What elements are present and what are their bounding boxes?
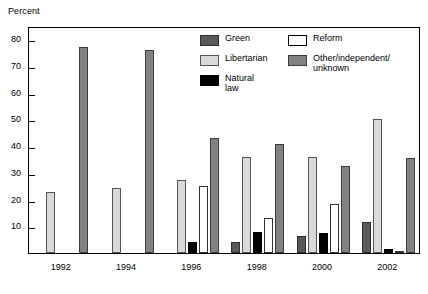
legend-entry-label: Green [225, 33, 250, 43]
bar [275, 144, 284, 253]
y-axis-tick-label: 30 [11, 168, 21, 178]
bar [373, 119, 382, 253]
percent-bar-chart: Percent 1020304050607080 199219941996199… [0, 0, 428, 294]
y-axis-tick-label: 10 [11, 221, 21, 231]
bar [231, 242, 240, 253]
y-axis-tick-label: 80 [11, 34, 21, 44]
bar [210, 138, 219, 253]
y-axis-tick-label: 60 [11, 88, 21, 98]
legend-swatch-icon [288, 35, 307, 46]
y-axis-tick-mark [29, 202, 35, 203]
y-axis-tick-label: 50 [11, 114, 21, 124]
bar [242, 157, 251, 253]
bar [330, 204, 339, 253]
bar [319, 233, 328, 253]
bar [46, 192, 55, 253]
y-axis-tick-mark [29, 95, 35, 96]
y-axis-tick-mark [29, 228, 35, 229]
bar [177, 180, 186, 253]
legend-swatch-icon [288, 55, 307, 66]
bar [406, 158, 415, 253]
y-axis-tick-mark [29, 175, 35, 176]
legend-swatch-icon [200, 35, 219, 46]
bar [79, 47, 88, 253]
bar [341, 166, 350, 253]
bar [253, 232, 262, 253]
legend-entry-label: Other/independent/ unknown [313, 53, 390, 73]
chart-legend: GreenLibertarianNatural law ReformOther/… [200, 33, 405, 95]
bar [308, 157, 317, 253]
x-axis-tick-label: 1996 [181, 262, 201, 272]
y-axis-tick-label: 70 [11, 61, 21, 71]
bar [188, 242, 197, 253]
legend-swatch-icon [200, 75, 219, 86]
legend-entry-label: Libertarian [225, 53, 268, 63]
y-axis-tick-label: 20 [11, 195, 21, 205]
y-axis-tick-mark [29, 121, 35, 122]
y-axis-tick-label: 40 [11, 141, 21, 151]
legend-swatch-icon [200, 55, 219, 66]
bar [384, 249, 393, 253]
x-axis-tick-label: 2002 [377, 262, 397, 272]
bar [362, 222, 371, 253]
legend-entry-label: Reform [313, 33, 343, 43]
y-axis-title: Percent [8, 6, 40, 16]
x-axis-tick-label: 1994 [116, 262, 136, 272]
bar [297, 236, 306, 253]
y-axis-tick-mark [29, 68, 35, 69]
bar [395, 251, 404, 253]
x-axis-tick-label: 2000 [312, 262, 332, 272]
legend-entry-label: Natural law [225, 73, 254, 93]
y-axis-tick-mark [29, 148, 35, 149]
bar [112, 188, 121, 253]
y-axis-tick-mark [29, 41, 35, 42]
bar [199, 186, 208, 253]
bar [145, 50, 154, 253]
x-axis-tick-label: 1992 [51, 262, 71, 272]
bar [264, 218, 273, 253]
x-axis-tick-label: 1998 [247, 262, 267, 272]
